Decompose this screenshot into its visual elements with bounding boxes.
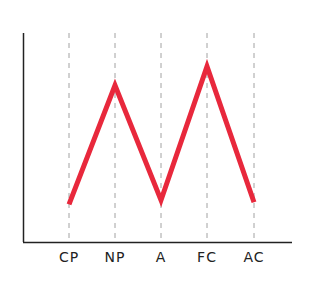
x-tick-label-ac: AC — [243, 249, 264, 265]
data-line — [69, 66, 254, 204]
x-tick-label-np: NP — [105, 249, 126, 265]
line-chart: CPNPAFCAC — [0, 0, 314, 284]
x-tick-label-a: A — [156, 249, 167, 265]
x-tick-label-cp: CP — [59, 249, 79, 265]
x-axis-tick-labels: CPNPAFCAC — [59, 249, 265, 265]
x-tick-label-fc: FC — [197, 249, 217, 265]
